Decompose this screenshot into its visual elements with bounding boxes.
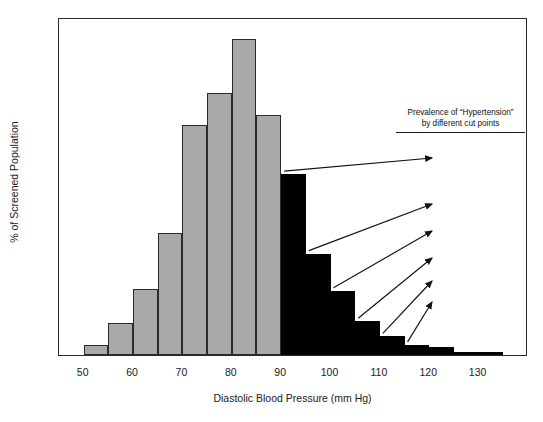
histogram-bar [281,174,306,355]
histogram-bar [84,345,109,355]
histogram-figure: % of Screened Population 05101520 506070… [0,0,543,422]
histogram-bar [133,289,158,355]
x-axis-tick-label: 100 [310,366,350,378]
histogram-bar [256,115,281,355]
x-axis-tick-label: 130 [458,366,498,378]
histogram-bar [207,93,232,355]
x-axis-tick-label: 60 [112,366,152,378]
x-axis-title: Diastolic Blood Pressure (mm Hg) [58,392,527,404]
histogram-bar [108,323,133,355]
histogram-bar [306,254,331,355]
histogram-bar [355,321,380,355]
histogram-bar [182,125,207,355]
annotation-divider [396,132,525,133]
histogram-bar [158,233,183,355]
histogram-bar [454,352,479,355]
x-axis-tick-label: 70 [161,366,201,378]
x-axis-tick-label: 120 [408,366,448,378]
histogram-bar [405,345,430,355]
annotation-header: Prevalence of “Hypertension” by differen… [390,108,531,129]
annotation-header-line-2: by different cut points [390,119,531,130]
histogram-bar [380,336,405,355]
histogram-bar [232,39,257,355]
x-axis-tick-label: 50 [63,366,103,378]
histogram-bar [331,291,356,355]
x-axis-tick-label: 90 [260,366,300,378]
x-axis-tick-label: 80 [211,366,251,378]
y-axis-title: % of Screened Population [8,102,20,262]
plot-area [58,18,527,356]
histogram-bar [479,352,504,355]
histogram-bar [429,347,454,355]
annotation-header-line-1: Prevalence of “Hypertension” [390,108,531,119]
annotation-panel: Prevalence of “Hypertension” by differen… [390,108,531,133]
x-axis-tick-label: 110 [359,366,399,378]
